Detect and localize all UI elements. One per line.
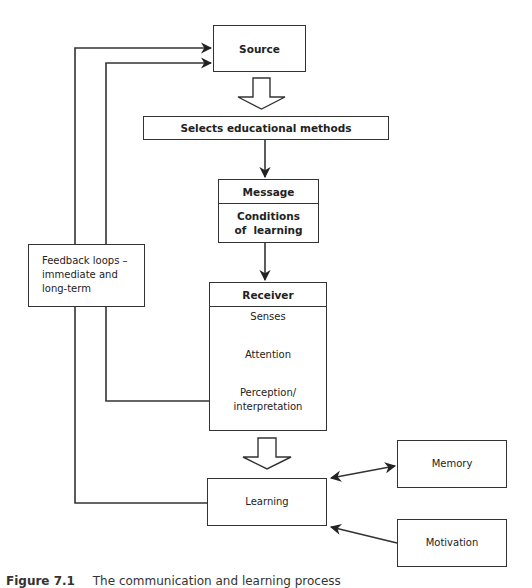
figure-caption: Figure 7.1 The communication and learnin… xyxy=(6,574,341,588)
receiver-box: Receiver Senses Attention Perception/ in… xyxy=(209,282,327,431)
feedback-line3: long-term xyxy=(42,282,144,296)
learning-box: Learning xyxy=(207,478,327,526)
motivation-box: Motivation xyxy=(397,519,507,567)
receiver-header-label: Receiver xyxy=(242,288,293,302)
memory-label: Memory xyxy=(432,457,473,471)
feedback-line1: Feedback loops – xyxy=(42,254,144,268)
selects-methods-box: Selects educational methods xyxy=(143,116,389,140)
message-body-line2: of learning xyxy=(219,223,318,237)
message-header-label: Message xyxy=(243,185,295,199)
receiver-step-perception: Perception/ xyxy=(210,386,326,400)
feedback-line2: immediate and xyxy=(42,268,144,282)
source-box: Source xyxy=(213,25,306,72)
receiver-step-interpretation: interpretation xyxy=(210,400,326,414)
source-label: Source xyxy=(239,42,280,56)
receiver-step-senses: Senses xyxy=(210,310,326,324)
figure-number: Figure 7.1 xyxy=(6,574,75,588)
receiver-step-attention: Attention xyxy=(210,348,326,362)
figure-caption-text: The communication and learning process xyxy=(93,574,341,588)
learning-label: Learning xyxy=(245,495,288,509)
message-box: Message Conditions of learning xyxy=(218,179,319,243)
memory-box: Memory xyxy=(397,440,507,488)
selects-methods-label: Selects educational methods xyxy=(180,121,351,135)
feedback-loops-box: Feedback loops – immediate and long-term xyxy=(28,244,145,307)
motivation-label: Motivation xyxy=(426,536,479,550)
message-body: Conditions of learning xyxy=(219,204,318,237)
message-header: Message xyxy=(219,180,318,204)
message-body-line1: Conditions xyxy=(219,209,318,223)
receiver-header: Receiver xyxy=(210,283,326,307)
